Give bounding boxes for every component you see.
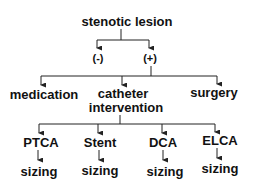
node-ptca-sizing: sizing (21, 165, 58, 179)
node-positive: (+) (143, 51, 157, 65)
node-dca: DCA (149, 136, 177, 150)
node-negative: (-) (93, 51, 104, 65)
node-ptca: PTCA (23, 136, 58, 150)
node-dca-sizing: sizing (147, 165, 184, 179)
node-stent: Stent (84, 136, 117, 150)
node-stenotic-lesion: stenotic lesion (81, 15, 172, 29)
node-catheter-line2: intervention (89, 101, 163, 115)
node-stent-sizing: sizing (82, 164, 119, 178)
node-medication: medication (10, 88, 79, 102)
node-elca-sizing: sizing (202, 162, 239, 176)
node-elca: ELCA (202, 134, 237, 148)
node-catheter-line1: catheter (98, 87, 149, 101)
node-surgery: surgery (190, 86, 238, 100)
